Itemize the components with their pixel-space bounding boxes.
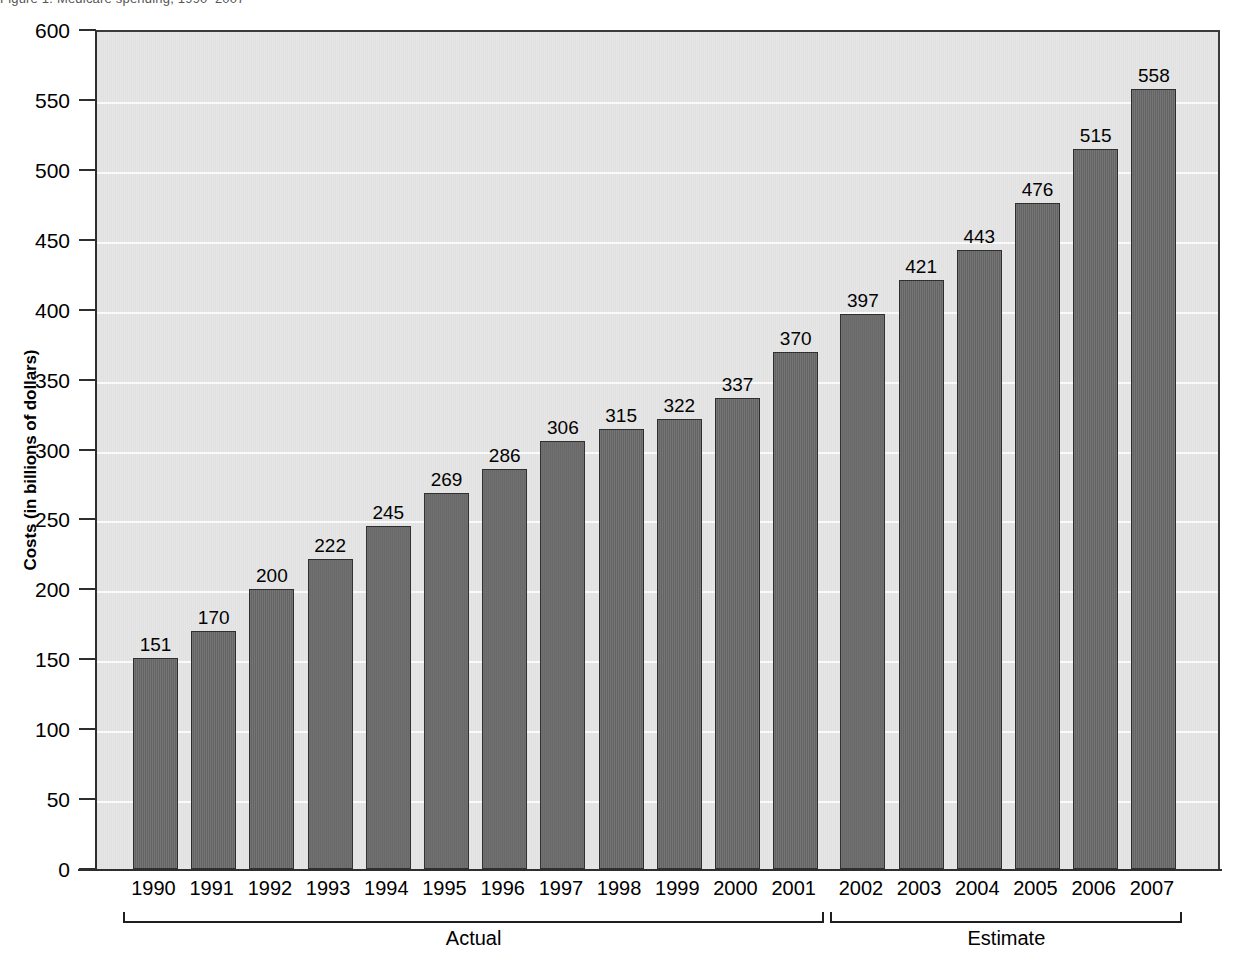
bar[interactable]: 315: [599, 429, 644, 869]
x-axis-tick-label: 2006: [1065, 878, 1122, 898]
bar-value-label: 151: [140, 635, 172, 654]
x-axis-tick-label: 1996: [474, 878, 531, 898]
bar[interactable]: 222: [308, 559, 353, 869]
bar[interactable]: 245: [366, 526, 411, 869]
y-axis-tick-label: 400: [10, 299, 70, 320]
y-axis-tick: [79, 868, 96, 870]
x-axis-tick-label: 2001: [765, 878, 822, 898]
bar[interactable]: 476: [1015, 203, 1060, 869]
bar-value-label: 245: [372, 503, 404, 522]
bar[interactable]: 370: [773, 352, 818, 869]
bar[interactable]: 421: [899, 280, 944, 869]
bar-value-label: 306: [547, 418, 579, 437]
bar-value-label: 515: [1080, 126, 1112, 145]
y-axis-tick-label: 450: [10, 229, 70, 250]
bar[interactable]: 322: [657, 419, 702, 869]
y-axis-tick: [79, 449, 96, 451]
x-axis-tick-label: 1992: [241, 878, 298, 898]
bar[interactable]: 337: [715, 398, 760, 869]
bar-value-label: 476: [1022, 180, 1054, 199]
bar-value-label: 315: [605, 406, 637, 425]
y-axis-tick: [79, 518, 96, 520]
y-axis-tick-label: 300: [10, 439, 70, 460]
bar[interactable]: 515: [1073, 149, 1118, 869]
bar-value-label: 170: [198, 608, 230, 627]
x-axis-line: [78, 869, 1222, 871]
bar-value-label: 337: [722, 375, 754, 394]
bar[interactable]: 269: [424, 493, 469, 869]
bar-value-label: 558: [1138, 66, 1170, 85]
y-axis-tick: [79, 658, 96, 660]
x-axis-tick-label: 1995: [416, 878, 473, 898]
plot-area: 1511702002222452692863063153223373703974…: [95, 30, 1220, 869]
bar[interactable]: 170: [191, 631, 236, 869]
x-axis-tick-label: 1990: [125, 878, 182, 898]
group-bracket: [123, 912, 824, 923]
y-axis-tick: [79, 99, 96, 101]
bar-value-label: 269: [431, 470, 463, 489]
bar-value-label: 443: [963, 227, 995, 246]
bar[interactable]: 200: [249, 589, 294, 869]
y-axis-tick: [79, 29, 96, 31]
figure-caption-fragment: Figure 1. Medicare spending, 1990–2007: [0, 0, 560, 9]
x-axis-tick-label: 1994: [358, 878, 415, 898]
bar-value-label: 421: [905, 257, 937, 276]
x-axis-tick-label: 2005: [1007, 878, 1064, 898]
x-axis-tick-label: 2003: [891, 878, 948, 898]
y-axis-tick: [79, 379, 96, 381]
group-bracket-label: Actual: [123, 928, 824, 948]
x-axis-tick-label: 1991: [183, 878, 240, 898]
bar-value-label: 286: [489, 446, 521, 465]
bar-chart-figure: Figure 1. Medicare spending, 1990–2007 C…: [0, 0, 1245, 966]
bar-value-label: 370: [780, 329, 812, 348]
gridline: [97, 102, 1218, 104]
y-axis-tick: [79, 309, 96, 311]
bar-value-label: 200: [256, 566, 288, 585]
y-axis-tick-label: 50: [10, 789, 70, 810]
y-axis-tick-label: 600: [10, 20, 70, 41]
x-axis-tick-label: 2002: [832, 878, 889, 898]
bar-value-label: 222: [314, 536, 346, 555]
y-axis-tick-label: 100: [10, 719, 70, 740]
y-axis-tick: [79, 588, 96, 590]
bar-value-label: 322: [663, 396, 695, 415]
bar[interactable]: 443: [957, 250, 1002, 869]
group-bracket-label: Estimate: [830, 928, 1182, 948]
y-axis-tick-label: 0: [10, 859, 70, 880]
y-axis-tick: [79, 169, 96, 171]
gridline: [97, 172, 1218, 174]
y-axis-tick-label: 500: [10, 159, 70, 180]
x-axis-tick-label: 1993: [300, 878, 357, 898]
bar[interactable]: 151: [133, 658, 178, 869]
x-axis-tick-label: 2000: [707, 878, 764, 898]
x-axis-tick-label: 2004: [949, 878, 1006, 898]
bar[interactable]: 286: [482, 469, 527, 869]
y-axis-tick: [79, 798, 96, 800]
x-axis-tick-label: 1998: [591, 878, 648, 898]
y-axis-tick-label: 350: [10, 369, 70, 390]
y-axis-tick-label: 200: [10, 579, 70, 600]
y-axis-line: [95, 30, 97, 871]
bar-value-label: 397: [847, 291, 879, 310]
x-axis-tick-label: 1999: [649, 878, 706, 898]
y-axis-tick-label: 250: [10, 509, 70, 530]
y-axis-tick-label: 150: [10, 649, 70, 670]
bar[interactable]: 397: [840, 314, 885, 869]
y-axis-tick: [79, 239, 96, 241]
bar[interactable]: 558: [1131, 89, 1176, 869]
y-axis-tick-label: 550: [10, 89, 70, 110]
x-axis-tick-label: 1997: [532, 878, 589, 898]
group-bracket: [830, 912, 1182, 923]
bar[interactable]: 306: [540, 441, 585, 869]
x-axis-tick-label: 2007: [1123, 878, 1180, 898]
y-axis-tick: [79, 728, 96, 730]
